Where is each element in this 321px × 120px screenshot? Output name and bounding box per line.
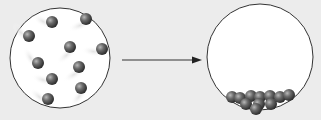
gas-container	[9, 8, 110, 109]
particle	[46, 16, 58, 28]
phase-change-diagram	[0, 0, 321, 120]
particle	[283, 89, 295, 101]
particle	[73, 61, 85, 73]
particle	[23, 30, 35, 42]
transition-arrow-icon	[122, 57, 202, 64]
particle	[80, 13, 92, 25]
particle	[46, 73, 58, 85]
particle	[64, 41, 76, 53]
particle	[75, 82, 87, 94]
particle	[265, 98, 277, 110]
particle	[42, 93, 54, 105]
particle	[32, 57, 44, 69]
condensed-container	[207, 4, 313, 115]
particle	[250, 103, 262, 115]
particle	[96, 43, 108, 55]
